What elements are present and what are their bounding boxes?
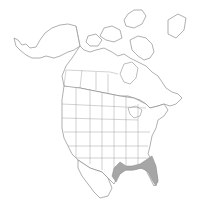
ellesmere-island bbox=[124, 10, 146, 28]
range-map bbox=[0, 0, 212, 205]
victoria-island bbox=[86, 34, 102, 46]
alaska bbox=[14, 24, 80, 58]
arctic-islands bbox=[100, 26, 122, 42]
north-america-map bbox=[0, 0, 212, 205]
baffin-island bbox=[130, 36, 154, 60]
greenland-edge bbox=[168, 14, 186, 38]
